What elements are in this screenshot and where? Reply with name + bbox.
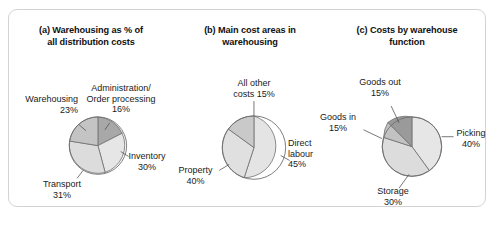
chart-b-label-direct-labour: Direct labour 45%	[288, 138, 332, 170]
chart-c-label-goods-in: Goods in 15%	[313, 112, 363, 133]
chart-a-slice-warehousing	[70, 117, 98, 146]
chart-c-label-picking: Picking 40%	[451, 128, 491, 149]
chart-a-label-warehousing: Warehousing 23%	[11, 94, 78, 115]
chart-a-label-transport: Transport 31%	[33, 179, 91, 200]
chart-panel-a: (a) Warehousing as % of all distribution…	[11, 10, 171, 206]
chart-a-leader-transport	[77, 170, 83, 178]
chart-b-label-all-other-costs: All other costs 15%	[214, 78, 294, 99]
chart-c-label-goods-out: Goods out 15%	[341, 77, 419, 98]
chart-c-leader-goods-in	[363, 130, 382, 139]
chart-panel-b: (b) Main cost areas in warehousing All o…	[171, 10, 329, 206]
chart-c-pie	[329, 10, 485, 206]
chart-b-label-property: Property 40%	[171, 165, 220, 186]
figure-frame: (a) Warehousing as % of all distribution…	[8, 9, 486, 207]
chart-a-label-inventory: Inventory 30%	[123, 151, 171, 172]
chart-c-label-storage: Storage 30%	[367, 186, 419, 207]
chart-b-leader-property	[219, 164, 229, 170]
chart-panel-c: (c) Costs by warehouse function Goods ou…	[329, 10, 485, 206]
chart-a-label-administration: Administration/ Order processing 16%	[73, 83, 169, 115]
